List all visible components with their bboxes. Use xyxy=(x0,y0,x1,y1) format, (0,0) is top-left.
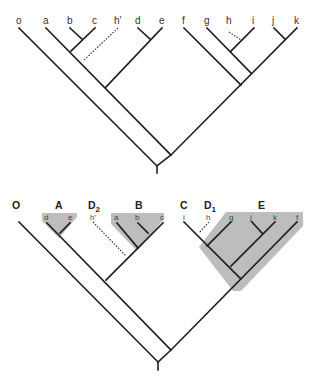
tip-label-o: o xyxy=(16,15,22,26)
tip-label-i: i xyxy=(183,213,185,222)
tip-label-e: e xyxy=(159,15,165,26)
tip-label-c: c xyxy=(92,15,97,26)
branch-i xyxy=(231,28,254,51)
tip-label-h: h xyxy=(206,213,210,222)
tip-label-g: g xyxy=(204,15,210,26)
branch-d-a-clade xyxy=(47,223,171,350)
branch-j xyxy=(274,28,285,39)
tip-label-b: b xyxy=(67,15,73,26)
branch-o xyxy=(19,28,157,173)
branch-h-dashed xyxy=(199,222,209,233)
branch-f xyxy=(184,28,241,85)
branch-h-prime-dashed xyxy=(83,28,118,61)
branch-a-clade xyxy=(46,28,171,155)
branch-b xyxy=(70,28,82,39)
tip-label-d: d xyxy=(44,213,48,222)
tip-label-j: j xyxy=(271,15,274,26)
tip-label-f: f xyxy=(182,15,185,26)
tip-label-a: a xyxy=(43,15,49,26)
tip-label-j: j xyxy=(249,213,252,222)
tip-label-h-prime: h' xyxy=(114,15,122,26)
tip-label-k: k xyxy=(294,15,300,26)
branch-h-dashed xyxy=(229,32,241,40)
phylogeny-figure: o a b c h' d e f g h i j k O A D2 xyxy=(0,0,319,382)
tip-label-h: h xyxy=(226,15,232,26)
group-label-c: C xyxy=(180,199,188,211)
tip-label-h-prime: h' xyxy=(90,213,96,222)
tip-label-e: e xyxy=(68,213,73,222)
tip-label-i: i xyxy=(252,15,254,26)
top-tree: o a b c h' d e f g h i j k xyxy=(16,15,300,173)
tip-label-d: d xyxy=(135,15,141,26)
tip-label-b: b xyxy=(135,213,140,222)
group-label-a: A xyxy=(55,199,63,211)
branch-g xyxy=(207,28,251,73)
tip-label-g: g xyxy=(229,213,233,222)
branch-e-de-clade xyxy=(106,28,162,87)
tip-label-c: c xyxy=(160,213,164,222)
tip-label-a: a xyxy=(114,213,119,222)
group-label-e: E xyxy=(258,199,265,211)
group-label-b: B xyxy=(135,199,143,211)
group-label-d1: D1 xyxy=(204,199,217,214)
group-label-d2: D2 xyxy=(88,199,101,214)
bottom-tree: O A D2 B C D1 E d e h' a b c i h g j k f xyxy=(12,199,303,370)
branch-d xyxy=(138,28,150,39)
group-label-o: O xyxy=(12,199,20,211)
